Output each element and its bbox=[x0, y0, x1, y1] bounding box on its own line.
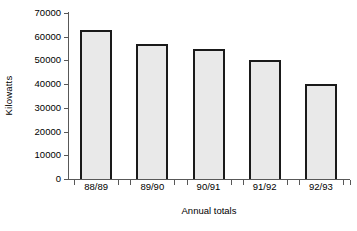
y-axis-title-label: Kilowatts bbox=[4, 75, 15, 115]
plot-area bbox=[68, 13, 349, 179]
y-tick-mark bbox=[64, 108, 68, 109]
y-axis-tick-labels: 010000200003000040000500006000070000 bbox=[18, 0, 65, 190]
bar bbox=[305, 84, 337, 179]
x-tick-label: 91/92 bbox=[253, 181, 277, 192]
y-tick-mark bbox=[64, 155, 68, 156]
y-tick-label: 0 bbox=[56, 174, 61, 184]
bar bbox=[193, 49, 225, 179]
y-tick-mark bbox=[64, 13, 68, 14]
y-tick-mark bbox=[64, 60, 68, 61]
bar bbox=[136, 44, 168, 179]
x-tick-label: 90/91 bbox=[197, 181, 221, 192]
x-tick-mark bbox=[350, 180, 351, 185]
y-tick-label: 30000 bbox=[35, 103, 61, 113]
y-tick-mark bbox=[64, 37, 68, 38]
bar bbox=[80, 30, 112, 179]
y-tick-label: 20000 bbox=[35, 127, 61, 137]
bar-chart: Kilowatts 010000200003000040000500006000… bbox=[0, 0, 357, 231]
y-tick-label: 60000 bbox=[35, 32, 61, 42]
y-axis-title: Kilowatts bbox=[0, 0, 18, 190]
x-axis-line bbox=[68, 179, 350, 180]
y-axis-line bbox=[68, 12, 69, 180]
x-axis-tick-labels: 88/8989/9090/9191/9292/93 bbox=[68, 181, 350, 195]
x-tick-label: 88/89 bbox=[84, 181, 108, 192]
x-tick-label: 89/90 bbox=[140, 181, 164, 192]
y-tick-label: 40000 bbox=[35, 79, 61, 89]
y-tick-mark bbox=[64, 84, 68, 85]
bar bbox=[249, 60, 281, 179]
y-tick-label: 10000 bbox=[35, 151, 61, 161]
y-tick-label: 70000 bbox=[35, 8, 61, 18]
y-tick-mark bbox=[64, 179, 68, 180]
x-tick-label: 92/93 bbox=[309, 181, 333, 192]
x-axis-title: Annual totals bbox=[68, 205, 350, 216]
y-tick-mark bbox=[64, 132, 68, 133]
y-tick-label: 50000 bbox=[35, 56, 61, 66]
